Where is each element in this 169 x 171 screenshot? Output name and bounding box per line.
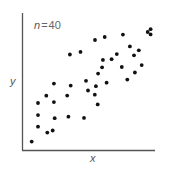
data-point [94, 84, 98, 88]
data-point [51, 129, 55, 133]
scatter-plot: y x n=40 [0, 0, 169, 171]
data-point [140, 63, 144, 67]
data-point [101, 58, 105, 62]
data-point [96, 72, 100, 76]
data-point [68, 53, 72, 57]
data-point [110, 57, 114, 61]
data-point [128, 45, 132, 49]
data-point [79, 50, 83, 54]
data-point [121, 33, 125, 37]
data-point [137, 48, 141, 52]
data-point [115, 52, 119, 56]
data-point [30, 140, 34, 144]
annotation-value: 40 [49, 19, 61, 31]
x-axis-label: x [89, 152, 96, 164]
data-point [69, 84, 73, 88]
data-point [86, 89, 90, 93]
data-point [84, 79, 88, 83]
data-point [44, 94, 48, 98]
data-point [52, 82, 56, 86]
data-point [105, 81, 109, 85]
data-point [149, 33, 153, 37]
annotation-variable: n [34, 19, 40, 31]
data-point [52, 100, 56, 104]
data-point [103, 35, 107, 39]
data-point [36, 113, 40, 117]
data-point [45, 131, 49, 135]
data-point [36, 125, 40, 129]
sample-size-annotation: n=40 [34, 19, 61, 31]
data-point [82, 116, 86, 120]
data-point [125, 78, 129, 82]
data-points [30, 27, 153, 143]
annotation-equals: = [41, 19, 47, 31]
data-point [100, 65, 104, 69]
data-point [65, 94, 69, 98]
data-point [149, 27, 153, 31]
data-point [53, 116, 57, 120]
data-point [96, 103, 100, 107]
data-point [36, 101, 40, 105]
data-point [93, 38, 97, 42]
data-point [67, 115, 71, 119]
y-axis-label: y [9, 75, 17, 87]
data-point [132, 53, 136, 57]
data-point [120, 65, 124, 69]
data-point [133, 71, 137, 75]
data-point [93, 93, 97, 97]
